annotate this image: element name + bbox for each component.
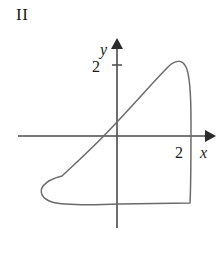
plot-svg: y x 2 2: [0, 0, 222, 256]
y-axis-arrow-icon: [111, 38, 123, 49]
y-tick-label-2: 2: [92, 58, 100, 75]
x-tick-label-2: 2: [175, 144, 183, 161]
closed-loop-curve: [41, 61, 191, 205]
x-axis-arrow-icon: [205, 130, 216, 142]
figure-label: II: [16, 5, 28, 25]
y-axis-label: y: [98, 41, 108, 59]
x-axis-label: x: [199, 144, 207, 161]
figure-container: II y x 2 2: [0, 0, 222, 256]
